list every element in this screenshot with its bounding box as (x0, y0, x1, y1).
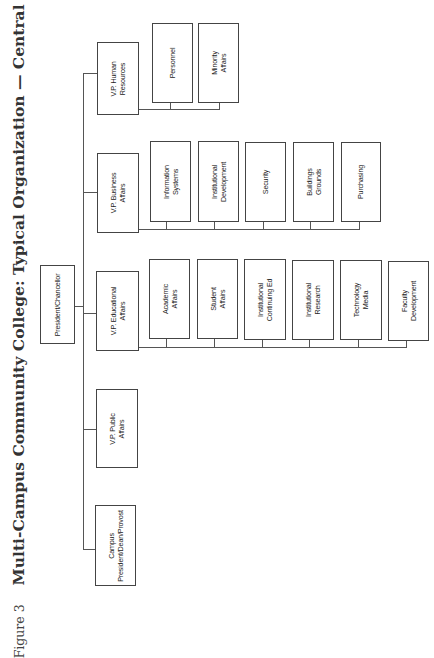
box-vp-human-resources: V.P. HumanResources (97, 42, 139, 115)
box-information-systems: InformationSystems (150, 141, 191, 222)
box-campus-president: CampusPresident/Dean/Provost (95, 505, 136, 586)
box-vp-public-affairs: V.P. PublicAffairs (96, 389, 138, 468)
label-institutional-continuing-ed: InstitutionalContinuing Ed (257, 278, 274, 321)
figure-title-text: Multi-Campus Community College: Typical … (9, 0, 28, 585)
connector-vp-educational (83, 313, 96, 314)
box-buildings-grounds: BuildingsGrounds (293, 142, 334, 222)
label-buildings-grounds: BuildingsGrounds (305, 168, 322, 195)
figure-label: Figure 3 (12, 604, 27, 658)
tick-bus-3 (263, 222, 264, 229)
tick-edu-2 (214, 339, 215, 347)
label-institutional-development: InstitutionalDevelopment (210, 161, 227, 201)
box-minority-affairs: MinorityAffairs (198, 23, 239, 103)
tick-edu-4 (309, 340, 310, 347)
tick-hr-2 (219, 103, 220, 110)
label-vp-educational-affairs: V.P. EducationalAffairs (109, 287, 126, 335)
label-academic-affairs: AcademicAffairs (161, 284, 178, 314)
tick-edu-6 (406, 340, 407, 348)
box-president-chancellor: President/Chancellor (40, 265, 75, 344)
connector-spine (83, 73, 84, 550)
label-personnel: Personnel (168, 48, 177, 79)
connector-campus (83, 549, 95, 550)
label-student-affairs: StudentAffairs (209, 287, 226, 310)
bus-educational (139, 347, 407, 348)
box-faculty-development: FacultyDevelopment (388, 261, 429, 341)
box-institutional-continuing-ed: InstitutionalContinuing Ed (244, 259, 286, 340)
connector-vp-hr (83, 73, 97, 74)
label-campus-president: CampusPresident/Dean/Provost (107, 510, 124, 582)
box-security: Security (245, 142, 286, 222)
label-vp-human-resources: V.P. HumanResources (110, 61, 127, 96)
label-technology-media: TechnologyMedia (353, 283, 370, 317)
box-technology-media: TechnologyMedia (340, 260, 382, 340)
label-faculty-development: FacultyDevelopment (400, 281, 417, 321)
tick-hr-1 (170, 103, 171, 109)
tick-bus-2 (214, 222, 215, 229)
box-personnel: Personnel (152, 23, 193, 103)
bus-business (139, 229, 360, 230)
connector-vp-business (83, 192, 97, 193)
tick-edu-1 (166, 339, 167, 347)
tick-bus-1 (166, 222, 167, 229)
box-purchasing: Purchasing (341, 142, 381, 222)
tick-edu-5 (358, 340, 359, 347)
connector-vp-public (83, 429, 96, 430)
box-student-affairs: StudentAffairs (197, 259, 238, 339)
label-vp-business-affairs: V.P. BusinessAffairs (110, 173, 127, 214)
box-institutional-research: InstitutionalResearch (292, 260, 334, 340)
label-vp-public-affairs: V.P. PublicAffairs (109, 413, 126, 444)
box-institutional-development: InstitutionalDevelopment (198, 141, 239, 222)
box-vp-educational-affairs: V.P. EducationalAffairs (96, 271, 139, 351)
bus-hr (139, 109, 219, 110)
label-minority-affairs: MinorityAffairs (210, 51, 227, 75)
figure-title: Figure 3 Multi-Campus Community College:… (9, 0, 28, 658)
tick-bus-5 (359, 222, 360, 229)
label-president-chancellor: President/Chancellor (53, 273, 62, 336)
label-institutional-research: InstitutionalResearch (305, 283, 322, 317)
label-purchasing: Purchasing (357, 165, 366, 199)
tick-edu-3 (262, 340, 263, 347)
tick-bus-4 (310, 222, 311, 229)
label-security: Security (261, 170, 270, 194)
box-academic-affairs: AcademicAffairs (149, 259, 190, 339)
box-vp-business-affairs: V.P. BusinessAffairs (97, 153, 139, 233)
label-information-systems: InformationSystems (162, 165, 179, 199)
